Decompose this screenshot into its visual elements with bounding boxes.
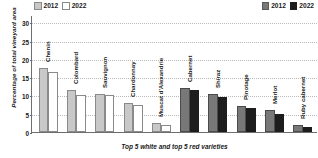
bar-muscat-d-alexandrie-2012 <box>152 123 162 132</box>
plot-area: 051015202530 CheninColombardSauvignonCha… <box>31 16 317 133</box>
bar-shiraz-2012 <box>208 94 218 132</box>
bar-category-label: Pinotage <box>242 75 249 101</box>
bar-cabernet-2022 <box>190 90 200 132</box>
bar-group: Shiraz <box>204 16 232 132</box>
legend-swatch-red-2012-icon <box>262 2 270 10</box>
bar-category-label: Colombard <box>73 52 80 84</box>
legend-item-white-2022: 2022 <box>62 2 86 10</box>
bar-shiraz-2022 <box>218 97 228 132</box>
bar-chardonnay-2022 <box>133 105 143 132</box>
bar-chenin-2012 <box>39 68 49 132</box>
bar-groups: CheninColombardSauvignonChardonnayMuscat… <box>32 16 317 132</box>
chart-container: Percentage of total vineyard area 2012 2… <box>0 0 318 158</box>
bar-category-label: Chenin <box>44 41 51 62</box>
legend-white-varieties: 2012 2022 <box>34 2 86 10</box>
bar-ruby-cabernet-2022 <box>303 127 313 132</box>
legend-label-white-2012: 2012 <box>44 2 59 9</box>
bar-ruby-cabernet-2012 <box>293 125 303 132</box>
bar-group: Sauvignon <box>91 16 119 132</box>
bar-merlot-2012 <box>265 110 275 132</box>
y-tick-label: 20 <box>22 56 29 63</box>
legend-item-red-2022: 2022 <box>290 2 314 10</box>
legend-swatch-white-2012-icon <box>34 2 42 10</box>
bar-category-label: Cabernet <box>186 56 193 82</box>
bar-cabernet-2012 <box>180 88 190 132</box>
bar-pinotage-2012 <box>237 106 247 132</box>
bar-chardonnay-2012 <box>124 103 134 132</box>
bar-group: Colombard <box>62 16 90 132</box>
bar-category-label: Muscat d'Alexandrie <box>158 58 165 117</box>
y-tick-label: 10 <box>22 93 29 100</box>
bar-group: Muscat d'Alexandrie <box>147 16 175 132</box>
y-tick-label: 30 <box>22 20 29 27</box>
bar-muscat-d-alexandrie-2022 <box>161 125 171 132</box>
legend-red-varieties: 2012 2022 <box>262 2 314 10</box>
bar-group: Merlot <box>260 16 288 132</box>
legend-swatch-red-2022-icon <box>290 2 298 10</box>
legend-label-red-2022: 2022 <box>299 2 314 9</box>
y-tick-mark <box>30 133 33 134</box>
bar-group: Chenin <box>34 16 62 132</box>
bar-chenin-2022 <box>48 72 58 132</box>
bar-category-label: Sauvignon <box>101 56 108 87</box>
bar-colombard-2012 <box>67 90 77 132</box>
bar-group: Ruby cabernet <box>289 16 317 132</box>
y-tick-label: 25 <box>22 38 29 45</box>
bar-group: Pinotage <box>232 16 260 132</box>
bar-sauvignon-2022 <box>105 95 115 132</box>
y-tick-label: 0 <box>25 130 29 137</box>
bar-colombard-2022 <box>76 95 86 132</box>
y-axis-title: Percentage of total vineyard area <box>10 0 17 118</box>
bar-merlot-2022 <box>275 114 285 132</box>
bar-category-label: Merlot <box>271 86 278 104</box>
x-axis-title: Top 5 white and top 5 red varieties <box>31 143 318 150</box>
legend-item-white-2012: 2012 <box>34 2 58 10</box>
legend-label-red-2012: 2012 <box>271 2 286 9</box>
legend-label-white-2022: 2022 <box>72 2 87 9</box>
bar-category-label: Shiraz <box>214 69 221 87</box>
bar-group: Cabernet <box>175 16 203 132</box>
legend-item-red-2012: 2012 <box>262 2 286 10</box>
bar-category-label: Ruby cabernet <box>299 76 306 118</box>
bar-group: Chardonnay <box>119 16 147 132</box>
bar-pinotage-2022 <box>246 108 256 132</box>
bar-category-label: Chardonnay <box>129 61 136 97</box>
legend-swatch-white-2022-icon <box>62 2 70 10</box>
y-tick-label: 5 <box>25 111 29 118</box>
y-tick-label: 15 <box>22 75 29 82</box>
bar-sauvignon-2012 <box>95 94 105 132</box>
